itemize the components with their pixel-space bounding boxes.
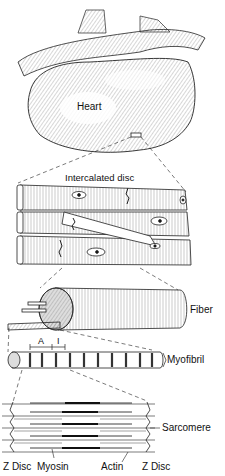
magnification-lines-3 [8,328,152,352]
sarcomere-label: Sarcomere [162,423,211,433]
cardiac-cells-illustration [17,185,191,265]
band-markers [30,344,65,350]
magnification-lines-2 [40,268,178,290]
myofibril-label: Myofibril [167,355,204,365]
fiber-illustration [8,288,187,330]
fiber-label: Fiber [190,305,213,315]
magnification-lines-4 [13,370,147,402]
band-i-label: I [57,337,60,346]
band-a-label: A [38,337,44,346]
heart-illustration [18,10,205,152]
cardiac-muscle-diagram [0,0,225,476]
myosin-label: Myosin [37,462,69,472]
sarcomere-illustration [2,402,160,462]
heart-label: Heart [77,102,101,112]
z-disc-right-label: Z Disc [142,462,170,472]
intercalated-disc-label: Intercalated disc [65,173,134,183]
z-disc-left-label: Z Disc [3,462,31,472]
myofibril-illustration [8,352,166,368]
actin-label: Actin [101,462,123,472]
